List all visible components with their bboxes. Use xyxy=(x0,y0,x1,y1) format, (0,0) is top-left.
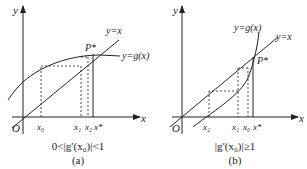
identity-line-label: y=x xyxy=(275,31,292,42)
identity-line xyxy=(170,37,278,127)
origin-label: O xyxy=(12,122,20,134)
y-axis-label: y xyxy=(172,4,178,16)
panel-a: y x O y=x y=g(x) P* x₀ x₁ x₂ x* 0<|g′(x₀… xyxy=(8,4,150,167)
fixed-point-iteration-diagram: y x O y=x y=g(x) P* x₀ x₁ x₂ x* 0<|g′(x₀… xyxy=(0,0,307,169)
x-axis-label: x xyxy=(298,112,304,124)
caption-condition: |g′(x₀)|≥1 xyxy=(215,140,256,153)
iteration-path xyxy=(209,68,248,117)
g-curve xyxy=(8,55,120,100)
fixed-point-label: P* xyxy=(84,42,96,53)
tick-x2: x₂ xyxy=(84,122,92,132)
tick-x0: x₀ xyxy=(36,122,44,132)
caption-condition: 0<|g′(x₀)|<1 xyxy=(52,140,104,153)
caption-label: (b) xyxy=(229,154,242,167)
g-curve xyxy=(193,32,259,127)
identity-line-label: y=x xyxy=(105,25,122,36)
tick-xstar: x* xyxy=(93,122,103,132)
identity-line xyxy=(12,40,119,128)
tick-x2: x₂ xyxy=(202,122,210,132)
y-axis-label: y xyxy=(12,4,18,16)
tick-xstar: x* xyxy=(252,122,262,132)
tick-x0: x₀ xyxy=(242,122,250,132)
g-curve-label: y=g(x) xyxy=(121,50,150,62)
tick-x1: x₁ xyxy=(231,122,239,132)
x-axis-label: x xyxy=(140,112,146,124)
caption-label: (a) xyxy=(72,154,85,167)
tick-x1: x₁ xyxy=(73,122,81,132)
g-curve-label: y=g(x) xyxy=(233,22,262,34)
panel-b: y x O y=x y=g(x) P* x₂ x₁ x₀ x* |g′(x₀)|… xyxy=(170,4,304,167)
fixed-point-label: P* xyxy=(256,55,268,66)
